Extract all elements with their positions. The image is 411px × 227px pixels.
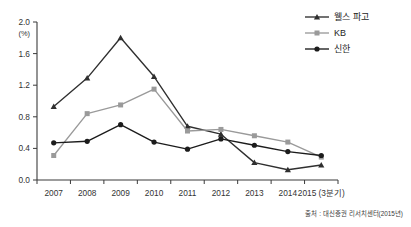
data-series-group <box>51 35 325 173</box>
data-point-marker <box>218 136 223 141</box>
data-point-marker <box>314 46 319 51</box>
y-tick-label: 0.8 <box>18 112 30 122</box>
data-point-marker <box>185 147 190 152</box>
data-point-marker <box>51 153 56 158</box>
x-tick-label: 2008 <box>78 188 97 198</box>
legend-item-웰스 파고[interactable]: 웰스 파고 <box>305 12 369 22</box>
source-attribution: 출처 : 대신증권 리서치센터(2015년) <box>305 209 403 218</box>
data-point-marker <box>151 139 156 144</box>
legend-item-KB[interactable]: KB <box>305 28 346 38</box>
data-point-marker <box>285 149 290 154</box>
x-tick-label: 2009 <box>111 188 130 198</box>
data-point-marker <box>185 129 190 134</box>
x-tick-label: 2011 <box>179 188 197 198</box>
data-point-marker <box>118 35 124 41</box>
data-point-marker <box>51 140 56 145</box>
data-point-marker <box>218 127 223 132</box>
legend-label: 신한 <box>334 44 350 54</box>
data-point-marker <box>285 140 290 145</box>
x-tick-label: 2014 <box>279 188 298 198</box>
plot-area: 0.00.40.81.21.62.0(%) 200720082009201020… <box>18 12 403 218</box>
y-tick-label: 1.2 <box>18 80 30 90</box>
data-point-marker <box>118 122 123 127</box>
data-point-marker <box>252 143 257 148</box>
data-point-marker <box>252 133 257 138</box>
legend-label: KB <box>334 28 346 38</box>
y-tick-label: 2.0 <box>18 17 30 27</box>
data-point-marker <box>152 87 157 92</box>
chart-container: 0.00.40.81.21.62.0(%) 200720082009201020… <box>0 0 411 227</box>
y-axis: 0.00.40.81.21.62.0(%) <box>18 17 37 185</box>
y-tick-label: 0.0 <box>18 175 30 185</box>
data-point-marker <box>315 31 320 36</box>
x-tick-label: 2015 (3분기) <box>298 188 345 198</box>
x-tick-label: 2007 <box>44 188 63 198</box>
y-tick-label: 1.6 <box>18 49 30 59</box>
legend-item-신한[interactable]: 신한 <box>305 44 350 54</box>
x-tick-label: 2012 <box>212 188 231 198</box>
line-chart: 0.00.40.81.21.62.0(%) 200720082009201020… <box>0 0 411 227</box>
chart-legend: 웰스 파고KB신한 <box>305 12 369 54</box>
data-point-marker <box>85 139 90 144</box>
y-tick-label: 0.4 <box>18 143 30 153</box>
data-point-marker <box>85 111 90 116</box>
x-axis: 200720082009201020112012201320142015 (3분… <box>37 180 345 198</box>
x-tick-label: 2010 <box>145 188 164 198</box>
data-point-marker <box>118 102 123 107</box>
x-tick-label: 2013 <box>245 188 264 198</box>
legend-label: 웰스 파고 <box>334 12 369 22</box>
data-point-marker <box>319 153 324 158</box>
y-axis-unit-label: (%) <box>19 29 31 38</box>
